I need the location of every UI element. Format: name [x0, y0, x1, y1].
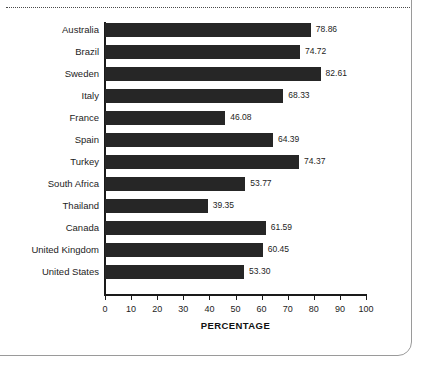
- bar-value-label: 39.35: [213, 198, 234, 213]
- bar-value-label: 60.45: [268, 242, 289, 257]
- bar-value-label: 82.61: [326, 66, 347, 81]
- bar: [105, 111, 225, 125]
- plot-area: Australia78.86Brazil74.72Sweden82.61Ital…: [105, 22, 366, 294]
- bar: [105, 67, 321, 81]
- bar-row: Canada61.59: [105, 220, 366, 242]
- chart-page: Australia78.86Brazil74.72Sweden82.61Ital…: [0, 0, 421, 367]
- bar-value-label: 61.59: [271, 220, 292, 235]
- x-axis-tick: [236, 294, 237, 300]
- category-label: Australia: [0, 22, 99, 37]
- category-label: Italy: [0, 88, 99, 103]
- bar-value-label: 53.77: [250, 176, 271, 191]
- x-axis-tick: [105, 294, 106, 300]
- bar-value-label: 46.08: [230, 110, 251, 125]
- x-axis-tick: [183, 294, 184, 300]
- bar-value-label: 78.86: [316, 22, 337, 37]
- bar-value-label: 64.39: [278, 132, 299, 147]
- bar-row: Australia78.86: [105, 22, 366, 44]
- category-label: France: [0, 110, 99, 125]
- x-axis-tick: [209, 294, 210, 300]
- bar: [105, 199, 208, 213]
- bar-value-label: 53.30: [249, 264, 270, 279]
- category-label: United Kingdom: [0, 242, 99, 257]
- bar: [105, 45, 300, 59]
- bar-row: United Kingdom60.45: [105, 242, 366, 264]
- bar-row: Brazil74.72: [105, 44, 366, 66]
- x-axis-tick: [262, 294, 263, 300]
- x-axis-tick: [314, 294, 315, 300]
- bar-row: Turkey74.37: [105, 154, 366, 176]
- x-axis-tick: [157, 294, 158, 300]
- bar: [105, 89, 283, 103]
- x-axis-title: PERCENTAGE: [105, 320, 366, 331]
- bar: [105, 265, 244, 279]
- bar-row: Italy68.33: [105, 88, 366, 110]
- x-axis-tick: [366, 294, 367, 300]
- bar: [105, 177, 245, 191]
- bar: [105, 133, 273, 147]
- category-label: Sweden: [0, 66, 99, 81]
- bar-value-label: 68.33: [288, 88, 309, 103]
- category-label: Thailand: [0, 198, 99, 213]
- bar: [105, 221, 266, 235]
- bar-value-label: 74.72: [305, 44, 326, 59]
- bar-value-label: 74.37: [304, 154, 325, 169]
- bar-row: Thailand39.35: [105, 198, 366, 220]
- x-axis-tick: [288, 294, 289, 300]
- x-axis-tick: [131, 294, 132, 300]
- x-axis-tick-label: 100: [351, 303, 381, 315]
- bar-row: Sweden82.61: [105, 66, 366, 88]
- bar: [105, 243, 263, 257]
- category-label: Canada: [0, 220, 99, 235]
- category-label: United States: [0, 264, 99, 279]
- bar: [105, 155, 299, 169]
- category-label: Turkey: [0, 154, 99, 169]
- bar-row: Spain64.39: [105, 132, 366, 154]
- bar: [105, 23, 311, 37]
- x-axis-tick: [340, 294, 341, 300]
- category-label: South Africa: [0, 176, 99, 191]
- category-label: Brazil: [0, 44, 99, 59]
- category-label: Spain: [0, 132, 99, 147]
- bar-row: United States53.30: [105, 264, 366, 286]
- bar-row: South Africa53.77: [105, 176, 366, 198]
- bar-row: France46.08: [105, 110, 366, 132]
- horizontal-bar-chart: Australia78.86Brazil74.72Sweden82.61Ital…: [0, 0, 421, 367]
